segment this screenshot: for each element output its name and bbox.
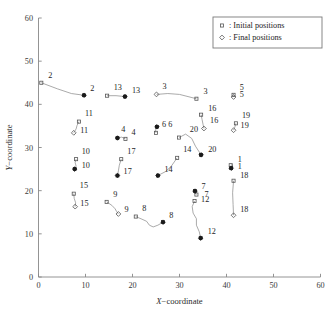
y-tick-label: 40: [25, 100, 33, 109]
y-tick-label: 30: [25, 144, 33, 153]
marker-initial-overlap: [194, 190, 197, 193]
point-label-6: 6: [168, 120, 172, 129]
track-12: [192, 199, 203, 240]
marker-initial-overlap: [116, 137, 119, 140]
point-label-4: 4: [121, 125, 125, 134]
track-path: [136, 217, 163, 227]
track-4: [115, 136, 127, 141]
track-1: [229, 164, 234, 171]
x-tick-label: 0: [36, 281, 40, 290]
track-path: [192, 201, 200, 238]
y-tick-label: 60: [25, 14, 33, 23]
point-label-2: 2: [48, 71, 52, 80]
point-label-3: 3: [203, 87, 207, 96]
y-tick-label: 10: [25, 230, 33, 239]
x-axis-title: X−coordinate: [155, 296, 203, 306]
marker-initial-overlap: [156, 174, 159, 177]
track-6: [154, 124, 159, 134]
point-label-19: 19: [242, 111, 250, 120]
point-label-12: 12: [201, 195, 209, 204]
track-19: [231, 122, 237, 133]
track-path: [233, 181, 234, 216]
plot-canvas: 01020304050600102030405060X−coordinateY−…: [0, 0, 333, 317]
x-tick-label: 10: [81, 281, 89, 290]
point-label-18: 18: [240, 171, 248, 180]
point-label-6: 6: [162, 120, 166, 129]
x-tick-label: 50: [269, 281, 277, 290]
track-5: [231, 93, 236, 99]
track-11: [71, 120, 80, 135]
point-label-4: 4: [132, 128, 136, 137]
point-label-8: 8: [142, 204, 146, 213]
track-path: [41, 83, 84, 96]
track-2: [40, 81, 87, 97]
point-label-3: 3: [163, 82, 167, 91]
point-label-1: 1: [238, 162, 242, 171]
legend-label: : Final positions: [229, 33, 282, 42]
marker-initial-square: [134, 215, 137, 218]
track-10: [72, 158, 77, 172]
point-label-5: 5: [240, 90, 244, 99]
point-label-9: 9: [113, 190, 117, 199]
point-labels-layer: 1122334455667788991010111112121313141415…: [48, 71, 250, 237]
x-tick-label: 40: [222, 281, 230, 290]
track-9: [105, 200, 121, 216]
y-tick-label: 50: [25, 57, 33, 66]
point-label-10: 10: [82, 161, 90, 170]
point-label-17: 17: [127, 147, 135, 156]
track-path: [107, 96, 125, 97]
track-7: [193, 189, 198, 196]
point-label-19: 19: [241, 121, 249, 130]
marker-initial-overlap: [83, 94, 86, 97]
track-15: [72, 192, 77, 209]
marker-initial-overlap: [123, 95, 126, 98]
point-label-15: 15: [80, 199, 88, 208]
marker-final-diamond: [231, 128, 236, 133]
point-label-14: 14: [183, 145, 191, 154]
marker-initial-overlap: [200, 153, 203, 156]
point-label-20: 20: [190, 125, 198, 134]
marker-initial-overlap: [116, 174, 119, 177]
marker-initial-overlap: [155, 125, 158, 128]
point-label-17: 17: [124, 167, 132, 176]
marker-initial-square: [177, 136, 180, 139]
track-18: [231, 179, 236, 217]
x-tick-label: 60: [316, 281, 324, 290]
marker-initial-overlap: [230, 167, 233, 170]
point-label-8: 8: [169, 211, 173, 220]
legend-entry-initial: : Initial positions: [220, 21, 284, 30]
point-label-14: 14: [164, 165, 172, 174]
legend: : Initial positions: Final positions: [213, 17, 322, 48]
point-label-18: 18: [240, 205, 248, 214]
y-axis-title: Y−coordinate: [4, 124, 14, 170]
point-label-20: 20: [208, 145, 216, 154]
marker-initial-square: [193, 199, 196, 202]
x-tick-label: 30: [175, 281, 183, 290]
point-label-11: 11: [80, 126, 88, 135]
y-tick-label: 20: [25, 187, 33, 196]
track-path: [117, 159, 121, 175]
point-label-9: 9: [125, 205, 129, 214]
track-16: [200, 113, 207, 131]
point-label-2: 2: [90, 84, 94, 93]
point-label-13: 13: [132, 86, 140, 95]
track-13: [106, 94, 128, 99]
track-3: [154, 92, 198, 100]
marker-initial-overlap: [162, 221, 165, 224]
track-17: [115, 158, 123, 178]
marker-final-diamond: [71, 130, 76, 135]
point-label-12: 12: [208, 227, 216, 236]
track-8: [134, 215, 165, 227]
figure-scatter-positions: 01020304050600102030405060X−coordinateY−…: [0, 0, 333, 317]
point-label-13: 13: [114, 83, 122, 92]
marker-initial-overlap: [73, 168, 76, 171]
point-label-16: 16: [208, 104, 216, 113]
x-tick-label: 20: [128, 281, 136, 290]
legend-label: : Initial positions: [229, 21, 285, 30]
track-path: [156, 94, 196, 99]
marker-initial-overlap: [199, 237, 202, 240]
point-label-15: 15: [80, 181, 88, 190]
point-label-16: 16: [210, 116, 218, 125]
point-label-10: 10: [82, 147, 90, 156]
legend-entry-final: : Final positions: [220, 33, 282, 42]
